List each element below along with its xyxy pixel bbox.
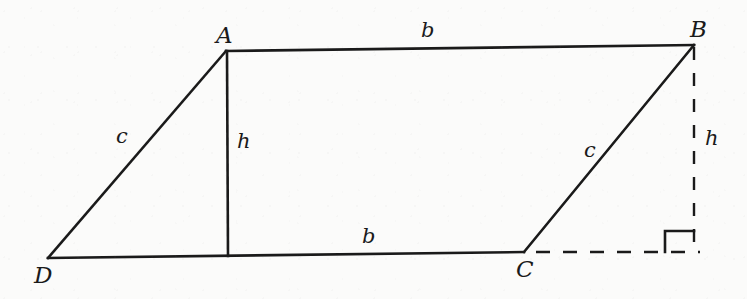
edge-BC [524, 45, 694, 252]
parallelogram-diagram-svg [0, 0, 747, 299]
geometry-figure: A B C D b b c c h h [0, 0, 747, 299]
vertex-label-B: B [690, 18, 707, 41]
vertex-label-C: C [516, 258, 534, 281]
edge-CD [48, 252, 524, 258]
right-angle-marker [665, 231, 694, 252]
side-label-c-right: c [584, 140, 596, 161]
vertex-label-A: A [216, 24, 233, 47]
altitude-inner-line [227, 51, 228, 256]
side-label-h-inner: h [237, 131, 251, 152]
vertex-label-D: D [34, 264, 52, 287]
edge-AB [226, 45, 694, 51]
side-label-h-outer: h [705, 128, 719, 149]
side-label-c-left: c [116, 126, 128, 147]
side-label-b-top: b [421, 20, 434, 41]
edge-DA [48, 51, 226, 258]
side-label-b-bottom: b [362, 226, 375, 247]
